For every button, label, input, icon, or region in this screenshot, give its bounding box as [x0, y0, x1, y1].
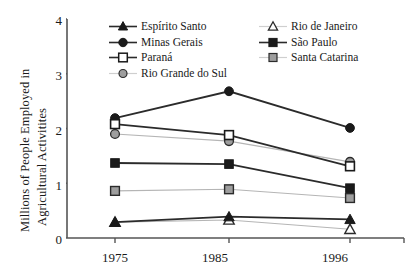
y-tick-3: 3	[44, 69, 62, 82]
data-point	[346, 162, 355, 171]
data-point	[225, 131, 234, 140]
data-point	[225, 160, 234, 169]
y-tick-0: 0	[44, 233, 62, 246]
series-layer	[110, 87, 355, 234]
data-point	[111, 187, 120, 196]
data-point	[225, 185, 234, 194]
y-tick-2: 2	[44, 124, 62, 137]
y-tick-4: 4	[44, 14, 62, 27]
plot-area	[66, 12, 406, 244]
series-minas-gerais	[115, 91, 350, 128]
data-point	[346, 194, 355, 203]
y-axis-tick-labels: 4 3 2 1 0	[40, 0, 62, 277]
data-point	[346, 184, 355, 193]
x-tick-1975: 1975	[85, 250, 145, 266]
data-point	[111, 159, 120, 168]
data-point	[225, 87, 234, 96]
data-point	[111, 130, 120, 139]
data-point	[111, 120, 120, 129]
y-tick-1: 1	[44, 179, 62, 192]
plot-svg	[66, 12, 406, 244]
data-point	[346, 124, 355, 133]
agriculture-employment-line-chart: Millions of People Employed in Agricultu…	[0, 0, 419, 277]
y-axis-title-line-1: Millions of People Employed in	[18, 69, 33, 232]
x-tick-1985: 1985	[185, 250, 245, 266]
x-tick-1996: 1996	[305, 250, 365, 266]
